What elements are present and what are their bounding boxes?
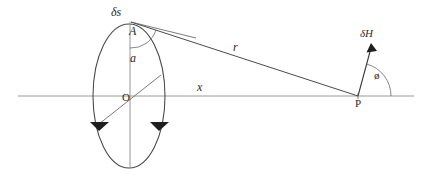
label-field-point-p: P	[355, 98, 361, 109]
label-center-o: O	[122, 92, 130, 103]
current-arrowhead-left	[90, 122, 109, 131]
field-vector-line	[358, 48, 371, 96]
label-axial-distance-x: x	[197, 81, 202, 93]
label-field-angle-phi: ø	[374, 70, 380, 81]
physics-diagram-figure: δs A a O r x P δH ø	[0, 0, 423, 179]
current-arrowhead-right	[150, 122, 169, 131]
field-vector-arrowhead	[367, 43, 378, 53]
label-radius-a: a	[130, 52, 136, 64]
angle-a-upper-ray	[131, 22, 196, 38]
label-angle-a: A	[129, 25, 136, 37]
label-field-vector-dh: δH	[360, 28, 373, 39]
label-current-element: δs	[111, 6, 121, 18]
label-distance-r: r	[233, 41, 238, 53]
